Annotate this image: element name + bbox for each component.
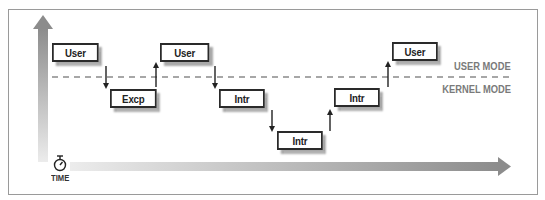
stopwatch-icon [55,156,66,171]
interrupt-box: Intr [277,131,323,150]
time-label: TIME [51,173,69,183]
interrupt-box: Intr [219,89,265,108]
user-mode-label: USER MODE [454,60,511,72]
user-box: User [392,42,438,61]
user-box: User [160,43,209,62]
user-box: User [52,43,99,62]
arrow-up-icon [33,15,53,162]
kernel-mode-label: KERNEL MODE [442,83,511,95]
interrupt-box: Intr [334,88,380,107]
arrow-right-icon [70,157,511,176]
diagram-canvas [0,0,545,200]
exception-box: Excp [110,89,157,108]
